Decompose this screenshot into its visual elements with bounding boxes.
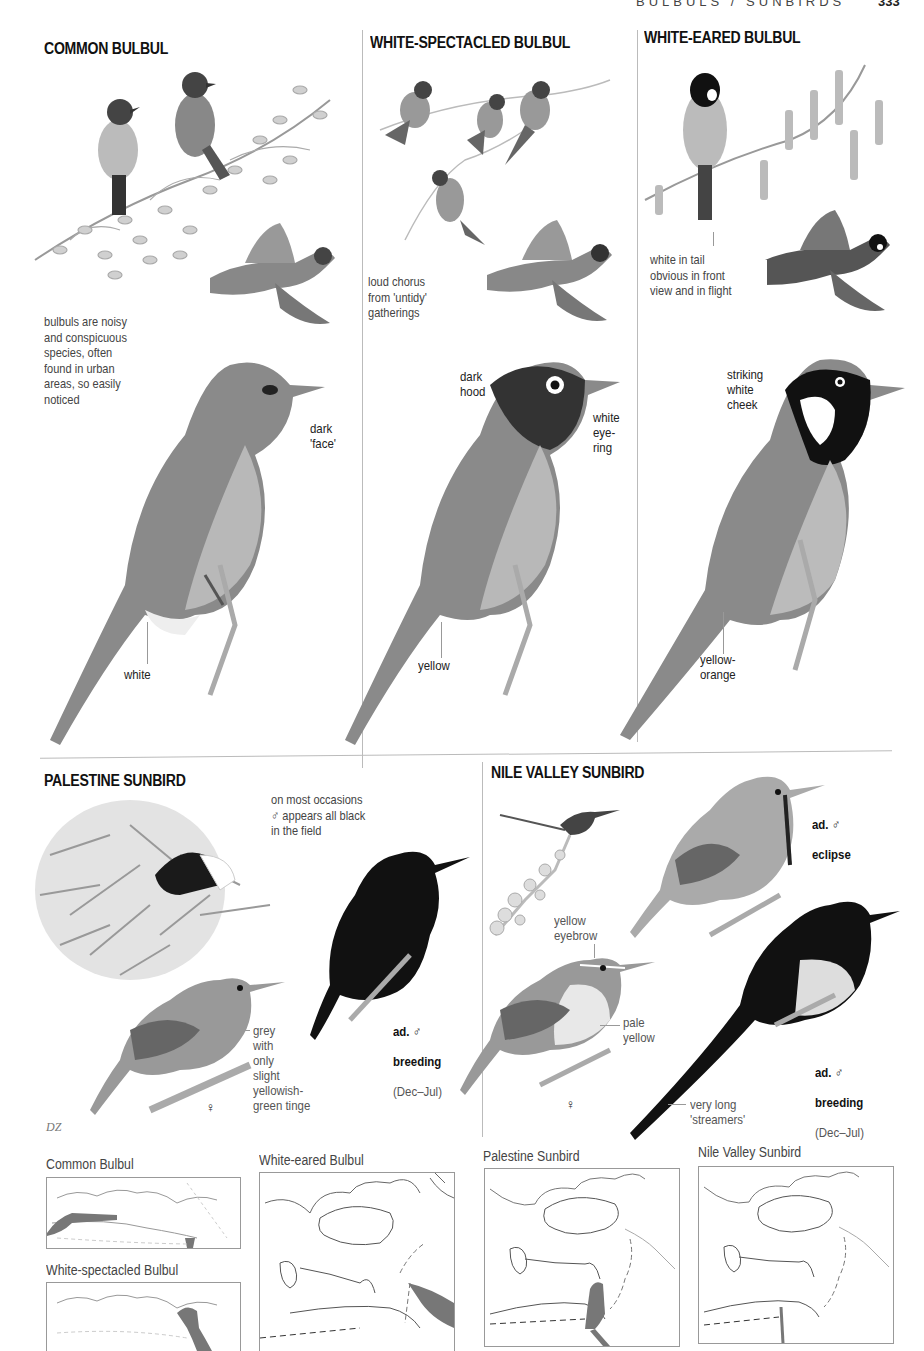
common-bulbul-flight-illustration xyxy=(205,218,355,328)
female-symbol: ♀ xyxy=(566,1097,575,1112)
white-eared-bulbul-flight-illustration xyxy=(760,205,910,315)
date-range: (Dec–Jul) xyxy=(815,1125,864,1140)
palestine-sunbird-male-tag: ad. ♂ breeding (Dec–Jul) xyxy=(393,1009,442,1099)
white-eared-bulbul-note: white in tail obvious in front view and … xyxy=(650,252,732,299)
female-symbol: ♀ xyxy=(206,1100,215,1115)
map-label-common-bulbul: Common Bulbul xyxy=(46,1156,134,1172)
range-map-common-bulbul xyxy=(46,1177,241,1249)
white-spectacled-bulbul-note: loud chorus from 'untidy' gatherings xyxy=(368,274,427,321)
age-label: ad. xyxy=(812,817,829,832)
white-spectacled-bulbul-flight-illustration xyxy=(482,215,632,325)
palestine-sunbird-female-label: grey with only slight yellowish- green t… xyxy=(253,1023,310,1113)
species-title: WHITE-SPECTACLED BULBUL xyxy=(370,34,570,52)
range-map-white-eared-bulbul xyxy=(259,1172,455,1351)
label-white: white xyxy=(124,667,151,682)
running-head: BULBULS / SUNBIRDS xyxy=(636,0,845,9)
white-eared-bulbul-portrait-illustration xyxy=(620,350,920,750)
leader-line xyxy=(441,622,442,658)
map-label-palestine-sunbird: Palestine Sunbird xyxy=(483,1148,580,1164)
label-dark-hood: dark hood xyxy=(460,369,485,399)
species-title: COMMON BULBUL xyxy=(44,40,168,58)
male-symbol: ♂ xyxy=(832,817,841,832)
nile-valley-sunbird-eclipse-tag: ad. ♂ eclipse xyxy=(812,802,851,862)
age-label: ad. xyxy=(393,1024,410,1039)
map-label-white-spectacled-bulbul: White-spectacled Bulbul xyxy=(46,1262,178,1278)
species-title: PALESTINE SUNBIRD xyxy=(44,772,186,790)
plumage-label: breeding xyxy=(393,1054,441,1069)
plumage-label: eclipse xyxy=(812,847,851,862)
page-number: 333 xyxy=(878,0,900,9)
palestine-sunbird-note: on most occasions ♂ appears all black in… xyxy=(271,792,365,839)
label-very-long-streamers: very long 'streamers' xyxy=(690,1097,745,1127)
map-label-nile-valley-sunbird: Nile Valley Sunbird xyxy=(698,1144,801,1160)
leader-line xyxy=(668,1104,686,1105)
plumage-label: breeding xyxy=(815,1095,863,1110)
leader-line xyxy=(600,1025,620,1026)
range-map-palestine-sunbird xyxy=(484,1168,680,1347)
label-striking-white-cheek: striking white cheek xyxy=(727,367,763,412)
label-yellow-eyebrow: yellow eyebrow xyxy=(554,913,597,943)
label-yellow-orange: yellow- orange xyxy=(700,652,736,682)
label-dark-face: dark 'face' xyxy=(310,421,336,451)
leader-line xyxy=(147,622,148,664)
nile-valley-sunbird-male-tag: ad. ♂ breeding (Dec–Jul) xyxy=(815,1050,864,1140)
label-white-eye-ring: white eye- ring xyxy=(593,410,620,455)
leader-line xyxy=(713,232,714,246)
date-range: (Dec–Jul) xyxy=(393,1084,442,1099)
map-label-white-eared-bulbul: White-eared Bulbul xyxy=(259,1152,364,1168)
label-yellow: yellow xyxy=(418,658,450,673)
white-spectacled-bulbul-portrait-illustration xyxy=(340,325,640,755)
species-title: NILE VALLEY SUNBIRD xyxy=(491,764,644,782)
species-title: WHITE-EARED BULBUL xyxy=(644,29,800,47)
palestine-sunbird-habitat-illustration xyxy=(30,795,290,995)
artist-credit: DZ xyxy=(46,1120,61,1135)
leader-line xyxy=(228,1030,250,1031)
male-symbol: ♂ xyxy=(835,1065,844,1080)
leader-line xyxy=(723,612,724,654)
male-symbol: ♂ xyxy=(413,1024,422,1039)
range-map-nile-valley-sunbird xyxy=(698,1166,894,1344)
age-label: ad. xyxy=(815,1065,832,1080)
range-map-white-spectacled-bulbul xyxy=(46,1282,241,1351)
common-bulbul-portrait-illustration xyxy=(45,325,345,755)
